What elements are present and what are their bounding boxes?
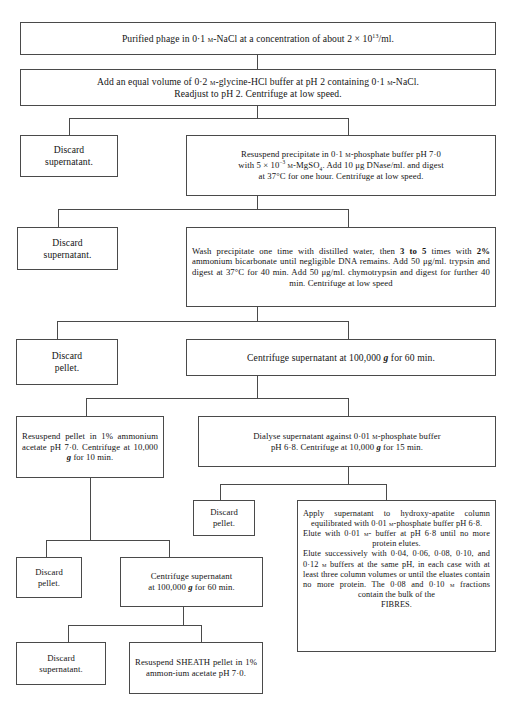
connector-split-1	[69, 118, 349, 119]
step-wash-precipitate-trypsin-text: Wash precipitate one time with distilled…	[192, 246, 490, 288]
step-resuspend-sheath-pellet: Resuspend SHEATH pellet in 1% ammon-ium …	[129, 642, 263, 694]
connector-split-2	[58, 209, 349, 210]
connector-to-discard-2	[58, 209, 59, 227]
discard-supernatant-3: Discardsupernatant.	[16, 642, 106, 685]
discard-supernatant-2-text: Discardsupernatant.	[23, 237, 112, 260]
connector-split-7	[68, 625, 201, 626]
connector-to-discard-1	[69, 118, 70, 135]
step-resuspend-precipitate-phosphate: Resuspend precipitate in 0·1 m-phosphate…	[186, 135, 496, 196]
connector-b2-down	[257, 106, 258, 118]
step-dialyse-supernatant-text: Dialyse supernatant against 0·01 m-phosp…	[204, 431, 490, 452]
step-add-glycine-hcl-text: Add an equal volume of 0·2 m-glycine-HCl…	[26, 76, 490, 99]
connector-b6-down	[257, 307, 258, 321]
flowchart-canvas: Purified phage in 0·1 m-NaCl at a concen…	[0, 0, 514, 716]
connector-to-centrifuge-1	[348, 321, 349, 339]
discard-pellet-3-text: Discardpellet.	[22, 567, 76, 588]
discard-pellet-2: Discardpellet.	[193, 500, 255, 536]
discard-pellet-1: Discardpellet.	[16, 339, 118, 385]
connector-to-discard-4	[220, 484, 221, 500]
discard-supernatant-2: Discardsupernatant.	[17, 227, 118, 270]
connector-to-wash	[348, 209, 349, 227]
connector-b14-down	[183, 607, 184, 625]
connector-to-resuspend-1	[348, 118, 349, 135]
discard-supernatant-1-text: Discardsupernatant.	[26, 144, 112, 167]
connector-split-5	[220, 484, 386, 485]
step-add-glycine-hcl: Add an equal volume of 0·2 m-glycine-HCl…	[20, 69, 496, 106]
connector-split-3	[57, 321, 349, 322]
step-resuspend-pellet-ammonium-acetate: Resuspend pellet in 1% ammonium acetate …	[16, 416, 164, 478]
discard-pellet-2-text: Discardpellet.	[199, 507, 249, 528]
connector-b9-down	[90, 478, 91, 540]
connector-b4-down	[257, 196, 258, 209]
connector-b1-b2	[257, 55, 258, 69]
step-wash-precipitate-trypsin: Wash precipitate one time with distilled…	[186, 227, 496, 307]
connector-to-discard-3	[57, 321, 58, 339]
step-centrifuge-100000g-60min-2: Centrifuge supernatantat 100,000 g for 6…	[120, 557, 263, 607]
step-centrifuge-100000g-60min-2-text: Centrifuge supernatantat 100,000 g for 6…	[126, 571, 257, 592]
connector-to-sheath	[201, 625, 202, 642]
step-dialyse-supernatant: Dialyse supernatant against 0·01 m-phosp…	[198, 416, 496, 467]
connector-to-resuspend-2	[86, 398, 87, 416]
connector-to-dialyse	[348, 398, 349, 416]
step-purified-phage: Purified phage in 0·1 m-NaCl at a concen…	[20, 22, 496, 55]
connector-split-4	[86, 398, 349, 399]
discard-supernatant-1: Discardsupernatant.	[20, 135, 118, 177]
step-centrifuge-100000g-60min-1: Centrifuge supernatant at 100,000 g for …	[186, 339, 496, 376]
step-purified-phage-text: Purified phage in 0·1 m-NaCl at a concen…	[26, 33, 490, 45]
step-centrifuge-100000g-60min-1-text: Centrifuge supernatant at 100,000 g for …	[192, 352, 490, 364]
discard-pellet-1-text: Discardpellet.	[22, 350, 112, 373]
connector-b10-down	[348, 467, 349, 484]
step-hydroxyapatite-column: Apply supernatant to hydroxy-apatite col…	[297, 500, 496, 652]
connector-split-6	[46, 540, 169, 541]
connector-to-centrifuge-2	[169, 540, 170, 557]
discard-pellet-3: Discardpellet.	[16, 557, 82, 598]
step-resuspend-precipitate-phosphate-text: Resuspend precipitate in 0·1 m-phosphate…	[192, 149, 490, 181]
connector-to-discard-5	[46, 540, 47, 557]
step-hydroxyapatite-column-text: Apply supernatant to hydroxy-apatite col…	[303, 509, 490, 610]
connector-b8-down	[257, 376, 258, 398]
connector-to-hydroxyapatite	[386, 484, 387, 500]
discard-supernatant-3-text: Discardsupernatant.	[22, 653, 100, 674]
step-resuspend-sheath-pellet-text: Resuspend SHEATH pellet in 1% ammon-ium …	[135, 657, 257, 678]
step-resuspend-pellet-ammonium-acetate-text: Resuspend pellet in 1% ammonium acetate …	[22, 431, 158, 463]
connector-to-discard-6	[68, 625, 69, 642]
